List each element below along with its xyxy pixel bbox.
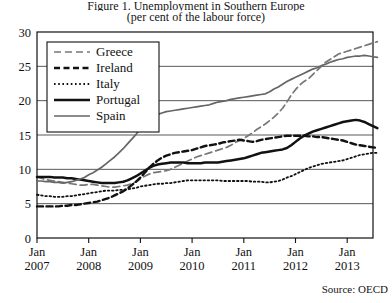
x-tick-4-year: 2011 [232,259,257,273]
y-tick-0: 0 [25,232,31,246]
legend-label-greece: Greece [96,44,133,59]
y-tick-30: 30 [19,26,32,40]
x-tick-1-month: Jan [80,245,97,259]
y-tick-10: 10 [19,163,32,177]
legend-label-italy: Italy [96,76,120,91]
chart-legend: GreeceIrelandItalyPortugalSpain [47,42,159,132]
x-tick-3-year: 2010 [180,259,205,273]
x-tick-6-year: 2013 [335,259,360,273]
x-axis-tickmarks [37,238,347,243]
x-axis-ticks: Jan 2007 Jan 2008 Jan 2009 Jan 2010 Jan … [25,245,360,273]
y-tick-15: 15 [19,129,32,143]
x-tick-2-year: 2009 [128,259,153,273]
legend-label-ireland: Ireland [96,60,133,75]
x-tick-0-month: Jan [29,245,46,259]
legend-label-portugal: Portugal [96,92,140,107]
x-tick-5-month: Jan [287,245,304,259]
x-tick-6-month: Jan [339,245,356,259]
x-tick-2-month: Jan [132,245,149,259]
x-tick-0-year: 2007 [25,259,50,273]
x-tick-5-year: 2012 [283,259,308,273]
chart-title-block: Figure 1. Unemployment in Southern Europ… [0,0,392,24]
legend-label-spain: Spain [96,108,126,123]
line-chart-svg: 30 25 20 15 10 5 0 Jan 2007 [0,26,392,276]
y-tick-25: 25 [19,60,32,74]
x-tick-4-month: Jan [235,245,252,259]
y-tick-5: 5 [25,197,31,211]
chart-page: Figure 1. Unemployment in Southern Europ… [0,0,392,303]
x-tick-3-month: Jan [184,245,201,259]
source-note: Source: OECD [322,283,388,295]
y-axis-ticks: 30 25 20 15 10 5 0 [19,26,32,246]
y-tick-20: 20 [19,94,32,108]
x-tick-1-year: 2008 [76,259,101,273]
chart-subtitle: (per cent of the labour force) [0,11,392,24]
plot-area: 30 25 20 15 10 5 0 Jan 2007 [0,26,392,276]
